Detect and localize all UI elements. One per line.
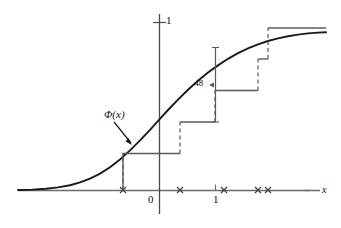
origin-label: 0	[148, 194, 154, 205]
x-tick-one-label: 1	[213, 194, 219, 205]
step-dashed-risers	[123, 28, 268, 190]
phi-leader-arrow	[114, 122, 132, 145]
x-axis-label: x	[322, 185, 326, 195]
y-tick-one-label: 1	[166, 15, 172, 26]
plot-canvas	[0, 0, 341, 228]
figure-normal-cdf-step: Φ(x) 0 1 1 .48 x	[0, 0, 341, 228]
gap-measure-segment	[209, 48, 219, 123]
gap-value-label: .48	[192, 79, 203, 88]
empirical-step-function	[123, 28, 326, 190]
phi-curve-label: Φ(x)	[104, 109, 125, 120]
phi-curve	[18, 32, 326, 190]
